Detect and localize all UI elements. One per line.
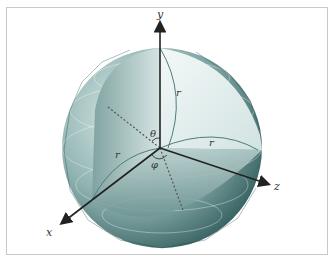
x-axis-label: x (46, 226, 53, 239)
z-axis-label: z (273, 180, 280, 193)
theta-label: θ (150, 128, 156, 139)
y-axis-label: y (156, 8, 164, 21)
phi-label: φ (151, 159, 158, 170)
sphere-diagram: y z x r r r θ φ (0, 0, 336, 262)
